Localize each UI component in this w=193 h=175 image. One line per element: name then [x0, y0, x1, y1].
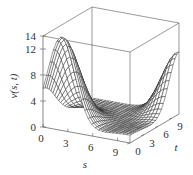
x-axis-label: s [83, 158, 87, 170]
svg-text:6: 6 [163, 128, 169, 140]
svg-text:9: 9 [177, 120, 183, 132]
svg-text:3: 3 [63, 137, 69, 149]
svg-text:3: 3 [149, 137, 155, 149]
surface-plot: 048121403690369 v(s, t) s t [0, 0, 193, 175]
z-axis-label: v(s, t) [7, 73, 20, 98]
svg-text:4: 4 [31, 95, 37, 107]
svg-text:0: 0 [135, 145, 141, 157]
svg-text:14: 14 [25, 30, 37, 42]
svg-text:0: 0 [31, 121, 37, 133]
svg-text:9: 9 [113, 146, 119, 158]
svg-text:8: 8 [31, 69, 37, 81]
svg-text:6: 6 [88, 141, 94, 153]
y-axis-label: t [174, 141, 178, 153]
surface-mesh [43, 37, 179, 135]
svg-text:12: 12 [25, 43, 36, 55]
svg-text:0: 0 [38, 132, 44, 144]
